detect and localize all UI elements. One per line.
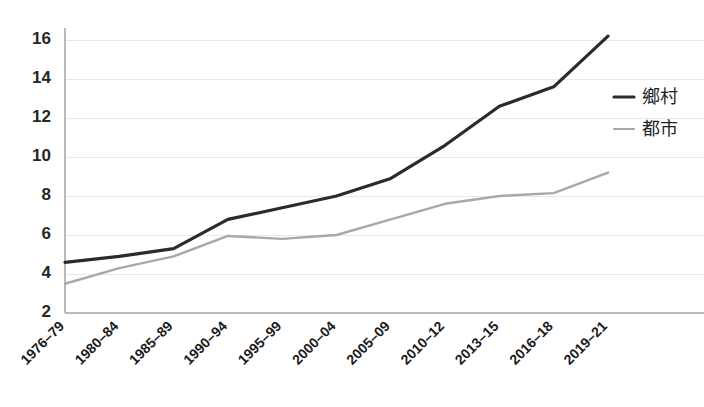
y-tick-label-12: 12 — [32, 107, 51, 126]
y-tick-label-8: 8 — [42, 185, 51, 204]
legend-label-rural: 鄉村 — [642, 86, 678, 107]
legend-label-urban: 都市 — [642, 118, 678, 139]
y-tick-label-4: 4 — [42, 263, 52, 282]
y-tick-label-2: 2 — [42, 302, 51, 321]
line-chart: 246810121416 1976–791980–841985–891990–9… — [0, 0, 704, 407]
chart-canvas: 246810121416 1976–791980–841985–891990–9… — [0, 0, 704, 407]
chart-background — [0, 0, 704, 407]
y-tick-label-6: 6 — [42, 224, 51, 243]
y-tick-label-14: 14 — [32, 68, 51, 87]
y-tick-label-10: 10 — [32, 146, 51, 165]
y-tick-label-16: 16 — [32, 29, 51, 48]
